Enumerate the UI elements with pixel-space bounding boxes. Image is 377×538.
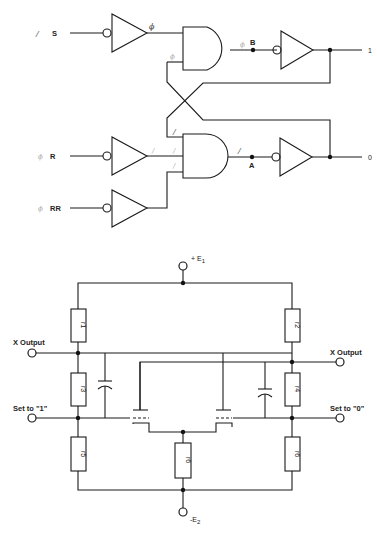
node-a-dot: [250, 155, 254, 159]
output-0-label: 0: [368, 154, 372, 161]
right-transistor-source: [183, 423, 232, 432]
schematic-canvas: / S ϕ ϕ ϕ B 1 ϕ R / ϕ RR: [0, 0, 377, 538]
analog-flipflop-circuit: + E1 r1 r2 X Output X Output: [13, 255, 365, 525]
upper-buffer-icon: [281, 31, 313, 69]
input-label-r: R: [50, 152, 56, 161]
lower-gate-in1-annotation: /: [172, 127, 177, 136]
feedback-upper-to-lower: [167, 50, 330, 137]
resistor-r1-label: r1: [80, 322, 87, 328]
r-inverter-bubble: [103, 152, 111, 160]
r-buffer-out-annotation: /: [151, 147, 155, 155]
input-label-rr: RR: [50, 204, 61, 213]
s-annotation: /: [35, 29, 40, 38]
left-base-junction: [76, 416, 80, 420]
set-to-1-label: Set to "1": [13, 404, 48, 413]
set-to-1-terminal[interactable]: [28, 414, 36, 422]
s-buffer-out-annotation: ϕ: [149, 22, 155, 31]
set-to-0-terminal[interactable]: [336, 414, 344, 422]
rr-inverter-bubble: [103, 204, 111, 212]
r-annotation: ϕ: [38, 153, 43, 161]
rr-buffer-icon: [112, 190, 147, 227]
upper-gate-out-annotation: ϕ: [240, 41, 245, 49]
resistor-r6-right-label: r6: [294, 451, 301, 457]
supply-neg-label: -E2: [190, 516, 201, 525]
upper-gate-in2-annotation: ϕ: [170, 53, 175, 61]
lower-gate-in3-annotation: /: [172, 162, 176, 170]
resistor-r5-label: r5: [80, 451, 87, 457]
left-output-junction: [76, 351, 80, 355]
output-0-junction: [328, 155, 332, 159]
resistor-r6-mid-label: r6: [185, 457, 192, 463]
lower-gate-in2-annotation: /: [172, 147, 176, 155]
s-inverter-bubble: [103, 29, 111, 37]
left-transistor-source: [133, 423, 183, 432]
s-buffer-icon: [112, 14, 147, 52]
top-rail-junction: [181, 281, 185, 285]
set-to-0-label: Set to "0": [330, 404, 365, 413]
resistor-r2-label: r2: [294, 322, 301, 328]
output-1-label: 1: [368, 47, 372, 54]
supply-pos-label: + E1: [191, 255, 206, 264]
lower-and-gate-icon: [183, 134, 228, 178]
left-x-output-terminal[interactable]: [28, 349, 36, 357]
input-label-s: S: [52, 29, 57, 38]
lower-gate-out-annotation: /: [237, 146, 242, 155]
upper-and-gate-icon: [183, 27, 222, 70]
right-base-junction: [290, 416, 294, 420]
rr-annotation: ϕ: [38, 205, 43, 213]
right-x-output-terminal[interactable]: [336, 358, 344, 366]
right-x-output-label: X Output: [330, 348, 362, 357]
lower-inverter-bubble: [272, 153, 280, 161]
lower-buffer-icon: [280, 138, 312, 176]
resistor-r4-label: r4: [294, 386, 301, 392]
rr-to-gate-wire: [147, 172, 183, 208]
node-a-label: A: [249, 161, 255, 170]
node-b-label: B: [250, 38, 256, 47]
resistor-r3-label: r3: [80, 386, 87, 392]
r-buffer-icon: [112, 137, 147, 175]
feedback-lower-to-upper: [167, 62, 330, 157]
logic-circuit: / S ϕ ϕ ϕ B 1 ϕ R / ϕ RR: [35, 14, 372, 227]
right-collector-rail: [140, 362, 292, 410]
left-x-output-label: X Output: [13, 338, 45, 347]
supply-neg-terminal: [179, 508, 187, 516]
node-b-dot: [251, 48, 255, 52]
top-rail: [78, 283, 292, 309]
supply-pos-terminal: [179, 262, 187, 270]
